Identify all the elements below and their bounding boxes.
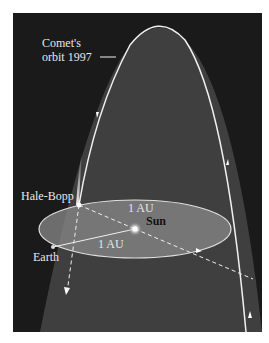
comet-icon (77, 203, 82, 208)
sun-label: Sun (146, 215, 166, 228)
comet-orbit-label-2: orbit 1997 (42, 51, 92, 64)
hale-bopp-label: Hale-Bopp (21, 190, 74, 203)
comet-orbit-region (40, 28, 262, 333)
distance-label-bottom: 1 AU (98, 238, 124, 251)
earth-icon (51, 245, 55, 249)
comet-orbit-label-1: Comet's (42, 37, 81, 50)
earth-label: Earth (33, 251, 59, 264)
sun-icon (133, 227, 138, 232)
